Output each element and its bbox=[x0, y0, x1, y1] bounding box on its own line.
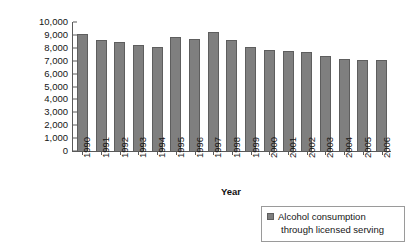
bar-slot: 1991 bbox=[92, 22, 111, 151]
bar bbox=[96, 40, 107, 151]
bar-slot: 1995 bbox=[167, 22, 186, 151]
bar-slot: 1992 bbox=[110, 22, 129, 151]
bar bbox=[133, 45, 144, 151]
bar bbox=[114, 42, 125, 151]
bar-slot: 1994 bbox=[148, 22, 167, 151]
bar-slot: 2000 bbox=[260, 22, 279, 151]
y-axis-tick-label: 1,000 bbox=[44, 133, 73, 143]
legend-item: Alcohol consumption through licensed ser… bbox=[267, 211, 398, 236]
bar bbox=[226, 40, 237, 151]
bar-series: 1990199119921993199419951996199719981999… bbox=[73, 22, 391, 151]
bar bbox=[170, 37, 181, 151]
bar bbox=[208, 32, 219, 151]
y-axis-tick-label: 8,000 bbox=[44, 43, 73, 53]
bar bbox=[152, 47, 163, 151]
bar-chart-figure: Litres of 100% alcohol 10,0009,0008,0007… bbox=[0, 0, 411, 248]
y-axis-tick-label: 4,000 bbox=[44, 94, 73, 104]
legend-label-line1: Alcohol consumption bbox=[278, 211, 366, 222]
y-axis-tick-label: 6,000 bbox=[44, 69, 73, 79]
y-axis-tick-label: 3,000 bbox=[44, 107, 73, 117]
y-axis-tick-label: 0 bbox=[63, 146, 73, 156]
bar-slot: 2005 bbox=[354, 22, 373, 151]
chart-legend: Alcohol consumption through licensed ser… bbox=[261, 206, 405, 242]
y-axis-tick-label: 10,000 bbox=[39, 17, 73, 27]
bar bbox=[189, 39, 200, 151]
bar-slot: 2002 bbox=[297, 22, 316, 151]
bar-slot: 1998 bbox=[223, 22, 242, 151]
bar-slot: 1990 bbox=[73, 22, 92, 151]
bar bbox=[77, 34, 88, 151]
legend-label: Alcohol consumption through licensed ser… bbox=[278, 211, 384, 236]
x-axis-title: Year bbox=[72, 186, 390, 197]
bar-slot: 1996 bbox=[185, 22, 204, 151]
bar-slot: 1993 bbox=[129, 22, 148, 151]
bar-slot: 1999 bbox=[241, 22, 260, 151]
y-axis-tick-label: 5,000 bbox=[44, 82, 73, 92]
bar-slot: 2001 bbox=[279, 22, 298, 151]
bar bbox=[245, 47, 256, 151]
legend-swatch-icon bbox=[267, 213, 274, 220]
y-axis-tick-label: 9,000 bbox=[44, 30, 73, 40]
plot-area: 10,0009,0008,0007,0006,0005,0004,0003,00… bbox=[72, 22, 391, 152]
bar-slot: 2003 bbox=[316, 22, 335, 151]
bar-slot: 1997 bbox=[204, 22, 223, 151]
y-axis-tick-label: 7,000 bbox=[44, 56, 73, 66]
y-axis-tick-label: 2,000 bbox=[44, 120, 73, 130]
bar-slot: 2006 bbox=[372, 22, 391, 151]
x-axis-tick-label: 2006 bbox=[382, 137, 392, 158]
legend-label-line2: through licensed serving bbox=[278, 224, 384, 237]
bar-slot: 2004 bbox=[335, 22, 354, 151]
